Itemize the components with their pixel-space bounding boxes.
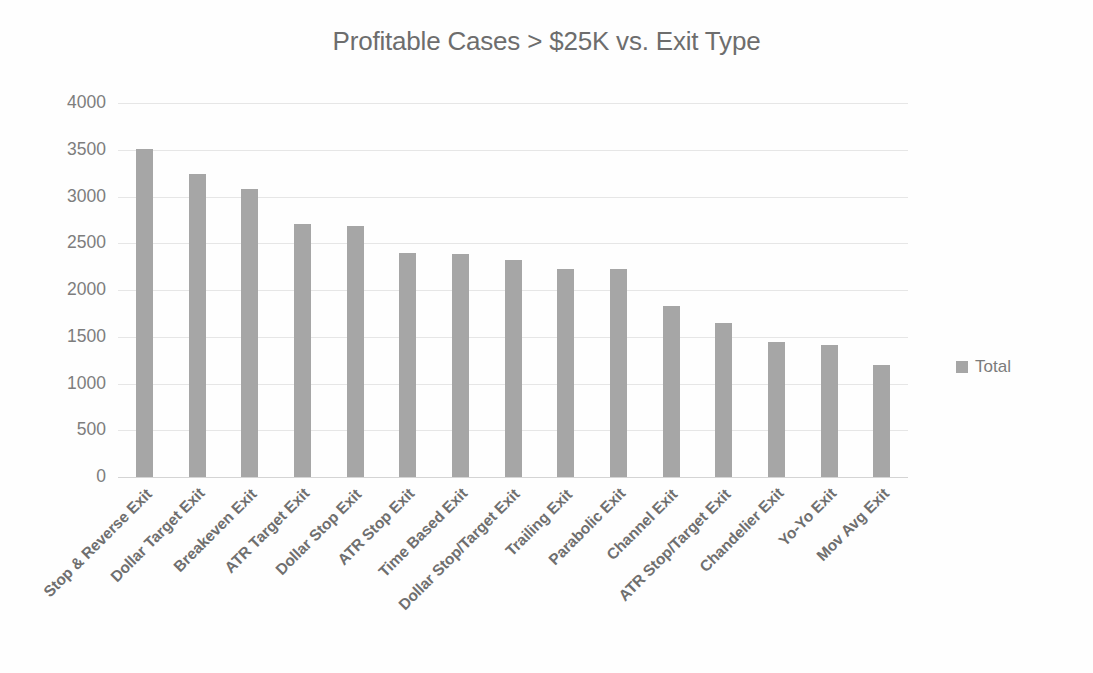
y-axis-tick-label: 3000 [44, 188, 106, 206]
bar [136, 149, 153, 477]
bar [715, 323, 732, 477]
y-axis-tick-label: 500 [44, 422, 106, 440]
y-axis-tick-label: 3500 [44, 141, 106, 159]
chart-container: Profitable Cases > $25K vs. Exit Type 40… [0, 0, 1093, 673]
bar [505, 260, 522, 477]
gridline [118, 103, 908, 104]
y-axis-tick-label: 4000 [44, 94, 106, 112]
bar [663, 306, 680, 477]
gridline [118, 150, 908, 151]
bar [294, 224, 311, 477]
bar [189, 174, 206, 477]
y-axis: 40003500300025002000150010005000 [44, 103, 106, 477]
bar [399, 253, 416, 477]
y-axis-tick-label: 0 [44, 468, 106, 486]
y-axis-tick-label: 2500 [44, 235, 106, 253]
bar [557, 269, 574, 478]
plot-area [118, 103, 908, 477]
chart-legend: Total [956, 357, 1011, 377]
legend-label-total: Total [975, 357, 1011, 377]
x-axis-tick-label: Dollar Target Exit [107, 485, 208, 586]
bar [452, 254, 469, 477]
gridline [118, 197, 908, 198]
bar [873, 365, 890, 477]
gridline [118, 243, 908, 244]
bar [768, 342, 785, 477]
bar [347, 226, 364, 478]
y-axis-tick-label: 1000 [44, 375, 106, 393]
chart-title: Profitable Cases > $25K vs. Exit Type [0, 26, 1093, 57]
bar [610, 269, 627, 477]
y-axis-tick-label: 2000 [44, 281, 106, 299]
bar [821, 345, 838, 477]
bar [241, 189, 258, 477]
x-axis: Stop & Reverse ExitDollar Target ExitBre… [118, 477, 908, 667]
y-axis-tick-label: 1500 [44, 328, 106, 346]
legend-swatch-total [956, 361, 968, 373]
